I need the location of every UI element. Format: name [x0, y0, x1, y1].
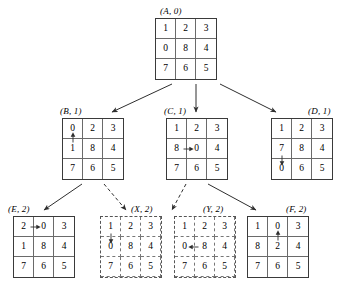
search-tree-diagram: (A, 0)123084765(B, 1)023184765(C, 1)1238… — [0, 0, 348, 296]
puzzle-cell[interactable]: 6 — [121, 257, 141, 277]
puzzle-cell[interactable]: 8 — [83, 139, 103, 159]
node-label-a: (A, 0) — [160, 6, 182, 16]
puzzle-cell[interactable]: 1 — [248, 217, 268, 237]
puzzle-cell[interactable]: 7 — [63, 159, 83, 179]
puzzle-cell[interactable]: 3 — [207, 119, 227, 139]
puzzle-cell[interactable]: 6 — [83, 159, 103, 179]
puzzle-cell[interactable]: 3 — [103, 119, 123, 139]
puzzle-cell[interactable]: 4 — [141, 237, 161, 257]
tree-edge-c-to-y — [172, 184, 186, 210]
puzzle-cell[interactable]: 1 — [167, 119, 187, 139]
puzzle-grid-e: 203184765 — [13, 216, 75, 278]
puzzle-cell[interactable]: 5 — [103, 159, 123, 179]
puzzle-cell[interactable]: 8 — [121, 237, 141, 257]
tree-edge-b-to-e — [44, 184, 82, 210]
puzzle-cell[interactable]: 0 — [101, 237, 121, 257]
puzzle-cell[interactable]: 3 — [141, 217, 161, 237]
puzzle-cell[interactable]: 8 — [176, 39, 196, 59]
puzzle-cell[interactable]: 3 — [288, 217, 308, 237]
puzzle-cell[interactable]: 3 — [54, 217, 74, 237]
puzzle-cell[interactable]: 2 — [121, 217, 141, 237]
puzzle-grid-b: 023184765 — [62, 118, 124, 180]
node-label-f: (F, 2) — [286, 204, 307, 214]
puzzle-cell[interactable]: 4 — [196, 39, 216, 59]
puzzle-cell[interactable]: 4 — [103, 139, 123, 159]
puzzle-cell[interactable]: 2 — [83, 119, 103, 139]
puzzle-cell[interactable]: 4 — [312, 139, 332, 159]
puzzle-cell[interactable]: 5 — [196, 59, 216, 79]
puzzle-cell[interactable]: 5 — [54, 257, 74, 277]
puzzle-cell[interactable]: 2 — [14, 217, 34, 237]
puzzle-cell[interactable]: 5 — [215, 257, 235, 277]
puzzle-cell[interactable]: 5 — [312, 159, 332, 179]
puzzle-cell[interactable]: 2 — [187, 119, 207, 139]
node-label-c: (C, 1) — [164, 106, 186, 116]
puzzle-cell[interactable]: 0 — [156, 39, 176, 59]
puzzle-cell[interactable]: 3 — [215, 217, 235, 237]
puzzle-cell[interactable]: 1 — [272, 119, 292, 139]
puzzle-cell[interactable]: 6 — [195, 257, 215, 277]
puzzle-cell[interactable]: 5 — [288, 257, 308, 277]
puzzle-grid-y: 123084765 — [174, 216, 236, 278]
puzzle-cell[interactable]: 6 — [292, 159, 312, 179]
node-label-e: (E, 2) — [8, 204, 30, 214]
puzzle-cell[interactable]: 5 — [207, 159, 227, 179]
puzzle-cell[interactable]: 2 — [195, 217, 215, 237]
puzzle-cell[interactable]: 7 — [167, 159, 187, 179]
puzzle-cell[interactable]: 0 — [175, 237, 195, 257]
puzzle-cell[interactable]: 1 — [63, 139, 83, 159]
puzzle-grid-x: 123084765 — [100, 216, 162, 278]
puzzle-cell[interactable]: 6 — [187, 159, 207, 179]
node-label-y: (Y, 2) — [203, 204, 223, 214]
puzzle-cell[interactable]: 1 — [156, 19, 176, 39]
puzzle-cell[interactable]: 2 — [268, 237, 288, 257]
puzzle-cell[interactable]: 1 — [101, 217, 121, 237]
puzzle-cell[interactable]: 7 — [14, 257, 34, 277]
puzzle-cell[interactable]: 4 — [54, 237, 74, 257]
puzzle-cell[interactable]: 6 — [176, 59, 196, 79]
puzzle-grid-d: 123784065 — [271, 118, 333, 180]
puzzle-cell[interactable]: 5 — [141, 257, 161, 277]
puzzle-grid-c: 123804765 — [166, 118, 228, 180]
puzzle-cell[interactable]: 8 — [248, 237, 268, 257]
puzzle-cell[interactable]: 0 — [268, 217, 288, 237]
puzzle-cell[interactable]: 8 — [167, 139, 187, 159]
node-label-b: (B, 1) — [60, 106, 82, 116]
puzzle-cell[interactable]: 6 — [34, 257, 54, 277]
puzzle-cell[interactable]: 7 — [248, 257, 268, 277]
puzzle-cell[interactable]: 1 — [175, 217, 195, 237]
puzzle-cell[interactable]: 1 — [14, 237, 34, 257]
puzzle-cell[interactable]: 2 — [176, 19, 196, 39]
puzzle-cell[interactable]: 3 — [196, 19, 216, 39]
puzzle-grid-a: 123084765 — [155, 18, 217, 80]
puzzle-cell[interactable]: 8 — [195, 237, 215, 257]
node-label-x: (X, 2) — [131, 204, 153, 214]
puzzle-cell[interactable]: 0 — [63, 119, 83, 139]
node-label-d: (D, 1) — [308, 106, 331, 116]
puzzle-cell[interactable]: 7 — [101, 257, 121, 277]
puzzle-cell[interactable]: 4 — [207, 139, 227, 159]
tree-edge-a-to-b — [112, 84, 172, 112]
puzzle-cell[interactable]: 6 — [268, 257, 288, 277]
tree-edge-b-to-x — [104, 184, 126, 210]
puzzle-cell[interactable]: 7 — [272, 139, 292, 159]
puzzle-cell[interactable]: 0 — [34, 217, 54, 237]
puzzle-grid-f: 103824765 — [247, 216, 309, 278]
puzzle-cell[interactable]: 7 — [156, 59, 176, 79]
puzzle-cell[interactable]: 8 — [292, 139, 312, 159]
puzzle-cell[interactable]: 4 — [288, 237, 308, 257]
puzzle-cell[interactable]: 7 — [175, 257, 195, 277]
puzzle-cell[interactable]: 8 — [34, 237, 54, 257]
puzzle-cell[interactable]: 3 — [312, 119, 332, 139]
puzzle-cell[interactable]: 2 — [292, 119, 312, 139]
puzzle-cell[interactable]: 4 — [215, 237, 235, 257]
puzzle-cell[interactable]: 0 — [187, 139, 207, 159]
tree-edge-a-to-d — [220, 84, 276, 112]
puzzle-cell[interactable]: 0 — [272, 159, 292, 179]
